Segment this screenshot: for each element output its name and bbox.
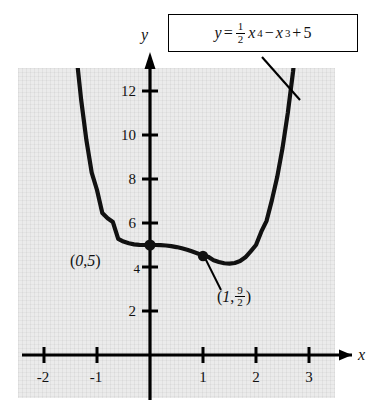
equation-equals: = <box>224 24 233 42</box>
equation-constant: 5 <box>303 24 311 42</box>
point-label-1-9-2-x: 1 <box>222 288 230 306</box>
y-tick-label-8: 8 <box>106 172 136 187</box>
x-axis-arrowhead <box>339 350 352 361</box>
y-axis-label: y <box>141 27 148 43</box>
x-tick-label-neg1: -1 <box>82 370 110 385</box>
y-tick-label-6: 6 <box>106 216 136 231</box>
equation-coefficient-fraction: 1 2 <box>236 21 246 45</box>
equation-term1-exponent: 4 <box>257 27 262 39</box>
x-tick-label-1: 1 <box>189 370 217 385</box>
equation-leader-line <box>262 57 300 100</box>
point-label-1-9-2-fraction: 9 2 <box>235 285 245 309</box>
y-axis <box>142 52 158 400</box>
equation-coefficient-denominator: 2 <box>236 34 246 45</box>
y-axis-arrowhead <box>145 52 156 69</box>
x-axis-label: x <box>358 347 365 363</box>
equation-lhs: y <box>215 24 222 42</box>
point-marker-1-9-2 <box>198 251 208 261</box>
y-tick-label-12: 12 <box>106 84 136 99</box>
point-label-1-9-2-close: ) <box>246 288 251 306</box>
point-marker-0-5 <box>144 239 155 250</box>
x-axis <box>22 347 352 363</box>
point-label-1-9-2: ( 1 , 9 2 ) <box>217 285 251 309</box>
point-label-1-9-2-denominator: 2 <box>235 297 245 308</box>
equation-minus-sign: − <box>265 24 274 42</box>
x-tick-label-neg2: -2 <box>29 370 57 385</box>
point-label-0-5-close: ) <box>95 252 100 270</box>
plot-overlay <box>0 0 378 418</box>
equation-term2-exponent: 3 <box>285 27 290 39</box>
graph-figure: y x 12 10 8 6 4 2 -2 -1 1 2 3 y = 1 2 x4… <box>0 0 378 418</box>
y-tick-label-10: 10 <box>106 128 136 143</box>
y-tick-label-4: 4 <box>110 262 140 275</box>
equation-coefficient-numerator: 1 <box>236 21 246 33</box>
equation-term2-base: x <box>276 24 283 42</box>
point-label-0-5-y: 5 <box>87 252 95 270</box>
equation-plus-sign: + <box>292 24 301 42</box>
equation-label-box: y = 1 2 x4 − x3 + 5 <box>168 14 358 52</box>
equation-term1-base: x <box>248 24 255 42</box>
point-label-0-5-x: 0 <box>75 252 83 270</box>
equation-text: y = 1 2 x4 − x3 + 5 <box>215 21 312 45</box>
point-label-1-9-2-comma: , <box>230 288 234 306</box>
x-tick-label-3: 3 <box>295 370 323 385</box>
y-tick-label-2: 2 <box>106 304 136 319</box>
x-tick-label-2: 2 <box>242 370 270 385</box>
point-label-0-5: ( 0 , 5 ) <box>70 252 101 270</box>
